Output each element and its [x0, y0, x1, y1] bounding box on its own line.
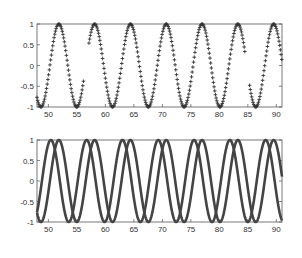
x-tick-label: 80 — [215, 110, 224, 119]
y-tick-label: -1 — [27, 103, 35, 112]
x-tick-label: 80 — [215, 225, 224, 234]
x-tick-label: 50 — [44, 225, 53, 234]
y-tick-label: 0.5 — [23, 41, 35, 50]
y-tick-label: -0.5 — [20, 82, 34, 91]
bottom-subplot: 50556065707580859010.50-0.5-1 — [20, 136, 282, 234]
x-tick-label: 65 — [129, 110, 138, 119]
y-tick-label: 0 — [30, 62, 35, 71]
sine-line-2 — [37, 140, 282, 222]
y-tick-label: -0.5 — [20, 198, 34, 207]
x-tick-label: 70 — [158, 110, 167, 119]
x-tick-label: 85 — [243, 110, 252, 119]
y-tick-label: 0 — [30, 177, 35, 186]
x-tick-label: 55 — [72, 110, 81, 119]
axes-frame — [37, 24, 282, 107]
x-tick-label: 70 — [158, 225, 167, 234]
x-tick-label: 55 — [72, 225, 81, 234]
x-tick-label: 60 — [101, 225, 110, 234]
y-tick-label: 1 — [30, 20, 35, 29]
x-tick-label: 75 — [186, 225, 195, 234]
x-tick-label: 90 — [272, 225, 281, 234]
x-tick-label: 90 — [272, 110, 281, 119]
x-tick-label: 60 — [101, 110, 110, 119]
x-tick-label: 50 — [44, 110, 53, 119]
y-tick-label: 1 — [30, 136, 35, 145]
x-tick-label: 75 — [186, 110, 195, 119]
x-tick-label: 65 — [129, 225, 138, 234]
plus-markers — [35, 22, 283, 109]
y-tick-label: -1 — [27, 218, 35, 227]
top-subplot: 50556065707580859010.50-0.5-1 — [20, 20, 283, 119]
figure: 50556065707580859010.50-0.5-1 5055606570… — [0, 0, 302, 258]
y-tick-label: 0.5 — [23, 157, 35, 166]
x-tick-label: 85 — [243, 225, 252, 234]
